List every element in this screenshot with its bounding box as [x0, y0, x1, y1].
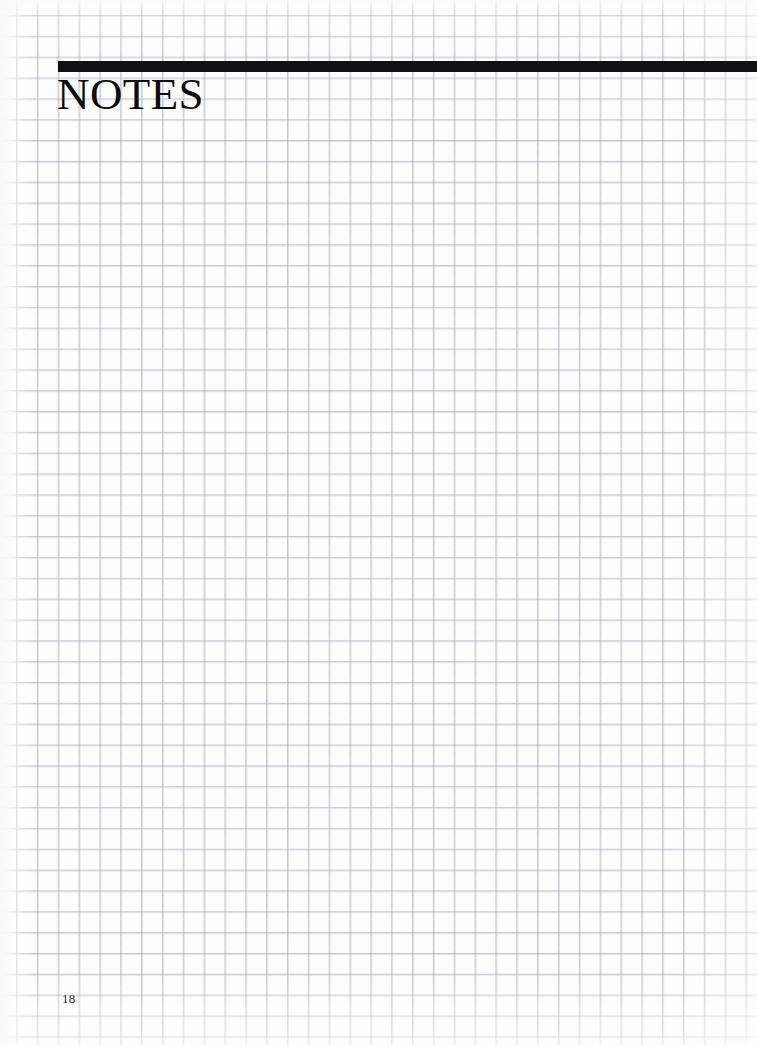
notes-page: NOTES 18: [0, 0, 757, 1045]
page-number: 18: [62, 991, 75, 1006]
page-title: NOTES: [57, 68, 204, 120]
notes-writing-area[interactable]: [58, 125, 757, 970]
